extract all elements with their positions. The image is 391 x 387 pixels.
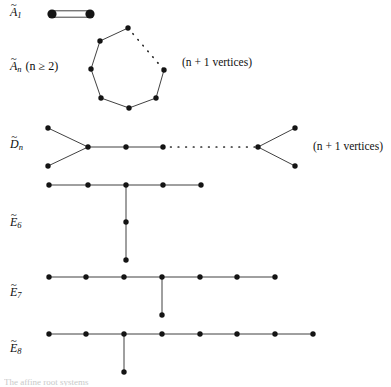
node-An-3 [98,95,103,100]
graph-nodes-group [45,9,315,374]
node-E6-1 [85,182,90,187]
node-E6-3 [160,182,165,187]
node-E6-5 [123,219,128,224]
graph-edges-group [48,11,313,372]
node-E8-3 [159,331,164,336]
node-E7-1 [83,274,88,279]
edge-An-3 [101,98,129,108]
node-An-4 [126,105,131,110]
node-Dn-6 [292,125,297,130]
node-E8-0 [46,331,51,336]
edge-Dn-0 [48,128,88,147]
node-E8-6 [272,331,277,336]
node-An-1 [97,38,102,43]
node-E8-5 [234,331,239,336]
node-E6-2 [123,182,128,187]
node-An-6 [161,67,166,72]
node-E8-2 [121,331,126,336]
dynkin-graph-canvas [0,0,391,387]
node-A1-1 [85,9,94,18]
dotted-edge-An-0 [128,28,164,70]
node-E7-5 [234,274,239,279]
edge-An-4 [129,98,156,108]
node-E8-7 [310,331,315,336]
node-E7-2 [121,274,126,279]
edge-Dn-5 [258,147,295,166]
edge-An-2 [91,69,101,98]
node-E8-4 [197,331,202,336]
node-Dn-5 [255,144,260,149]
edge-Dn-1 [48,147,88,166]
node-E6-4 [198,182,203,187]
node-An-5 [153,95,158,100]
node-E8-1 [83,331,88,336]
node-Dn-0 [45,125,50,130]
affine-dynkin-diagram-figure: ~A1 ~An(n ≥ 2) ~Dn ~E6 ~E7 ~E8 (n + 1 ve… [0,0,391,387]
node-E7-7 [159,312,164,317]
figure-bottom-caption: The affine root systems [4,377,184,386]
node-E8-8 [121,369,126,374]
node-E7-6 [272,274,277,279]
node-Dn-1 [45,163,50,168]
node-E7-4 [197,274,202,279]
node-An-0 [125,25,130,30]
node-Dn-7 [292,163,297,168]
node-A1-0 [47,9,56,18]
node-Dn-2 [85,144,90,149]
node-E6-0 [46,182,51,187]
node-E6-6 [123,257,128,262]
edge-An-5 [156,70,164,98]
node-E7-0 [46,274,51,279]
node-Dn-3 [123,144,128,149]
edge-An-1 [91,41,100,69]
node-E7-3 [159,274,164,279]
node-An-2 [88,66,93,71]
edge-An-0 [100,28,128,41]
node-Dn-4 [160,144,165,149]
edge-Dn-4 [258,128,295,147]
